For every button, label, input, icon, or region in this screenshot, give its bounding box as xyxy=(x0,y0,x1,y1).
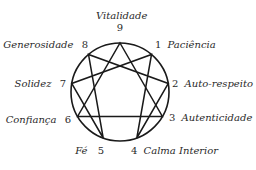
point-2-name: Auto-respeito xyxy=(185,78,253,89)
point-7-number: 7 xyxy=(60,78,66,89)
point-5-label: Fé 5 xyxy=(75,145,104,157)
point-1-label: 1 Paciência xyxy=(155,39,216,51)
point-4-name: Calma Interior xyxy=(144,145,219,156)
point-6-label: Confiança 6 xyxy=(6,114,71,126)
hexad-1-4-2-8-5-7 xyxy=(72,55,169,139)
point-1-name: Paciência xyxy=(168,39,216,50)
point-4-label: 4 Calma Interior xyxy=(131,145,218,157)
point-3-name: Autenticidade xyxy=(182,112,253,123)
point-3-label: 3 Autenticidade xyxy=(169,112,252,124)
point-7-label: Solidez 7 xyxy=(15,78,66,90)
triangle-9-3-6 xyxy=(78,43,163,117)
point-5-number: 5 xyxy=(98,145,104,156)
point-3-number: 3 xyxy=(169,112,175,123)
point-8-name: Generosidade xyxy=(3,39,73,50)
point-8-number: 8 xyxy=(82,39,88,50)
point-9-label: Vitalidade xyxy=(96,10,144,22)
point-2-label: 2 Auto-respeito xyxy=(172,78,253,90)
point-5-name: Fé xyxy=(75,145,87,156)
point-7-name: Solidez xyxy=(15,78,52,89)
point-4-number: 4 xyxy=(131,145,137,156)
point-9-number: 9 xyxy=(114,22,126,34)
point-6-number: 6 xyxy=(65,114,71,125)
point-2-number: 2 xyxy=(172,78,178,89)
point-1-number: 1 xyxy=(155,39,161,50)
enneagram-circle xyxy=(71,43,169,141)
point-8-label: Generosidade 8 xyxy=(3,39,88,51)
point-9-name: Vitalidade xyxy=(96,10,147,21)
point-6-name: Confiança xyxy=(6,114,57,125)
